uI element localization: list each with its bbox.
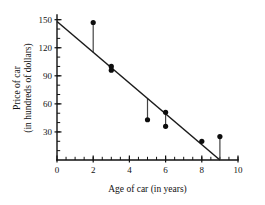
y-tick-label: 30 bbox=[43, 127, 53, 137]
y-tick-label: 120 bbox=[39, 43, 53, 53]
data-point bbox=[163, 110, 168, 115]
y-axis-title-line1: Price of car bbox=[12, 65, 22, 110]
x-tick-label: 6 bbox=[163, 165, 168, 175]
x-tick-label: 2 bbox=[91, 165, 96, 175]
x-axis-title: Age of car (in years) bbox=[108, 184, 187, 195]
x-axis-tick-labels: 0246810 bbox=[55, 165, 243, 175]
y-tick-label: 90 bbox=[43, 71, 53, 81]
x-tick-label: 10 bbox=[234, 165, 244, 175]
scatter-plot-figure: 306090120150 0246810 Age of car (in year… bbox=[0, 0, 265, 205]
data-point bbox=[145, 117, 150, 122]
data-point bbox=[199, 139, 204, 144]
y-axis-major-ticks bbox=[55, 20, 62, 132]
data-points bbox=[91, 20, 223, 144]
data-point bbox=[91, 20, 96, 25]
data-point bbox=[163, 124, 168, 129]
y-tick-label: 60 bbox=[43, 99, 53, 109]
regression-line bbox=[57, 22, 220, 160]
data-point bbox=[109, 68, 114, 73]
x-tick-label: 8 bbox=[200, 165, 205, 175]
y-axis-tick-labels: 306090120150 bbox=[39, 15, 53, 137]
x-tick-label: 0 bbox=[55, 165, 60, 175]
chart-canvas: 306090120150 0246810 Age of car (in year… bbox=[0, 0, 265, 205]
data-point bbox=[217, 134, 222, 139]
axes-group bbox=[57, 15, 238, 160]
y-axis-title-line2: (in hundreds of dollars) bbox=[23, 43, 34, 132]
x-tick-label: 4 bbox=[127, 165, 132, 175]
y-tick-label: 150 bbox=[39, 15, 53, 25]
